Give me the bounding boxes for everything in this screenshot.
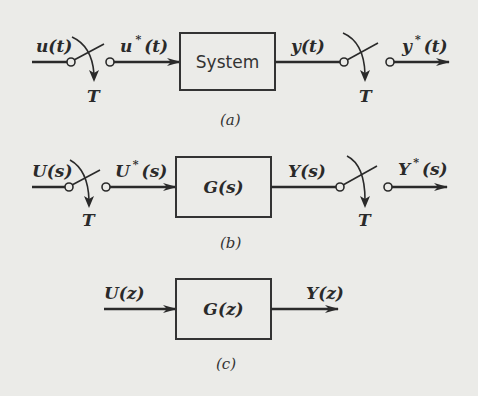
block-label-G-s: G(s) <box>203 177 243 197</box>
panel-a: u(t) T u*(t) System y(t) T y*(t) (a) <box>32 33 449 129</box>
label-U-s: U(s) <box>32 161 72 181</box>
caption-a: (a) <box>220 111 241 129</box>
sampling-period-label: T <box>87 86 101 106</box>
panel-b: U(s) T U*(s) G(s) Y(s) T Y*(s) (b) <box>32 156 448 252</box>
caption-c: (c) <box>216 355 236 373</box>
label-U-star-s: U*(s) <box>115 158 167 181</box>
switch-rotation-arrow-icon <box>70 160 89 200</box>
label-U-z: U(z) <box>104 283 145 303</box>
label-u-star-t: u*(t) <box>120 33 168 56</box>
label-y-t: y(t) <box>290 36 325 56</box>
panel-c: U(z) G(z) Y(z) (c) <box>104 279 344 373</box>
label-Y-z: Y(z) <box>306 283 344 303</box>
caption-b: (b) <box>220 234 241 252</box>
sampler-switch-output <box>340 33 394 82</box>
sampling-period-label: T <box>82 210 96 230</box>
switch-rotation-arrow-icon <box>343 33 365 74</box>
sampler-switch-input <box>67 37 114 82</box>
sampling-period-label: T <box>359 86 373 106</box>
label-y-star-t: y*(t) <box>401 33 448 56</box>
sampling-period-label: T <box>358 210 372 230</box>
system-block-label: System <box>196 52 259 72</box>
label-u-t: u(t) <box>36 36 72 56</box>
label-Y-star-s: Y*(s) <box>398 156 448 179</box>
label-Y-s: Y(s) <box>288 161 326 181</box>
sampled-data-block-diagram: u(t) T u*(t) System y(t) T y*(t) (a) U(s… <box>0 0 478 396</box>
block-label-G-z: G(z) <box>203 299 243 319</box>
sampler-switch-output <box>336 156 392 208</box>
